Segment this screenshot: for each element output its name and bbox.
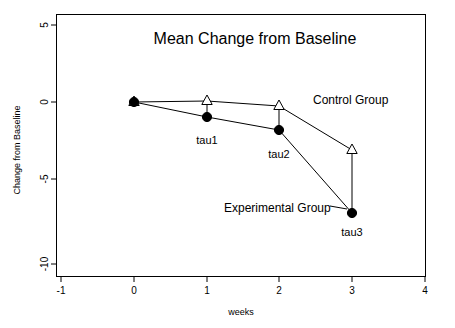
x-tick-label-2: 2 — [276, 285, 282, 296]
x-tick-label-neg1: -1 — [57, 285, 66, 296]
annotation-control-group: Control Group — [313, 93, 389, 107]
x-tick-label-4: 4 — [422, 285, 428, 296]
y-tick-label-neg5: -5 — [39, 174, 50, 183]
y-tick-label-0: 0 — [39, 99, 50, 105]
experimental-group-line — [134, 102, 352, 213]
x-tick-label-1: 1 — [204, 285, 210, 296]
y-tick-label-5: 5 — [39, 22, 50, 28]
difference-arrow-tau3 — [347, 144, 357, 213]
chart-title: Mean Change from Baseline — [154, 30, 357, 47]
experimental-marker-baseline — [129, 97, 138, 106]
point-label-tau1: tau1 — [196, 134, 217, 146]
control-marker-tau2 — [274, 100, 284, 110]
x-tick-label-3: 3 — [349, 285, 355, 296]
point-label-tau3: tau3 — [341, 226, 362, 238]
y-axis-ticks — [51, 25, 56, 264]
y-tick-label-neg10: -10 — [39, 256, 50, 271]
y-axis-tick-labels: 5 0 -5 -10 — [39, 22, 50, 271]
experimental-marker-tau2 — [274, 125, 283, 134]
chart-container: 5 0 -5 -10 Change from Baseline -1 0 1 2… — [0, 0, 455, 328]
annotation-leader-experimental — [330, 206, 347, 209]
experimental-marker-tau1 — [202, 112, 211, 121]
point-label-tau2: tau2 — [268, 148, 289, 160]
plot-frame — [57, 15, 426, 277]
mean-change-from-baseline-chart: 5 0 -5 -10 Change from Baseline -1 0 1 2… — [0, 0, 455, 328]
x-tick-label-0: 0 — [131, 285, 137, 296]
y-axis-title: Change from Baseline — [12, 105, 22, 194]
x-axis-title: weeks — [227, 307, 254, 317]
experimental-marker-tau3 — [347, 208, 356, 217]
x-axis-ticks — [61, 277, 425, 282]
control-marker-tau3 — [347, 144, 357, 154]
annotation-experimental-group: Experimental Group — [224, 201, 331, 215]
control-marker-tau1 — [202, 95, 212, 105]
x-axis-tick-labels: -1 0 1 2 3 4 — [57, 285, 429, 296]
